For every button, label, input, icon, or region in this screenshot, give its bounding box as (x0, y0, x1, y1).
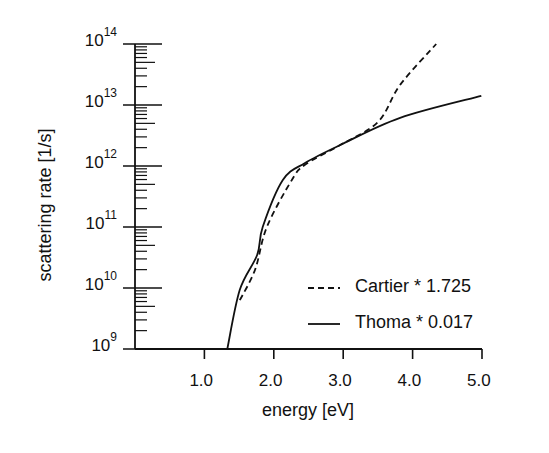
y-tick-label: 1013 (57, 89, 117, 112)
legend-label-cartier: Cartier * 1.725 (355, 276, 471, 297)
y-tick-label: 1010 (57, 272, 117, 295)
x-axis-label: energy [eV] (262, 400, 354, 421)
y-tick-label: 1012 (57, 150, 117, 173)
legend-lines (308, 288, 340, 324)
y-tick-label: 109 (57, 333, 117, 356)
y-tick-label: 1011 (57, 211, 117, 234)
y-tick-label: 1014 (57, 28, 117, 51)
series-line-cartier (240, 44, 436, 300)
y-axis-label: scattering rate [1/s] (35, 128, 56, 281)
x-tick-label: 1.0 (189, 371, 213, 391)
x-tick-label: 5.0 (467, 371, 491, 391)
x-tick-label: 2.0 (259, 371, 283, 391)
series-group (227, 44, 481, 349)
x-tick-label: 4.0 (398, 371, 422, 391)
x-tick-label: 3.0 (328, 371, 352, 391)
legend-label-thoma: Thoma * 0.017 (355, 312, 473, 333)
